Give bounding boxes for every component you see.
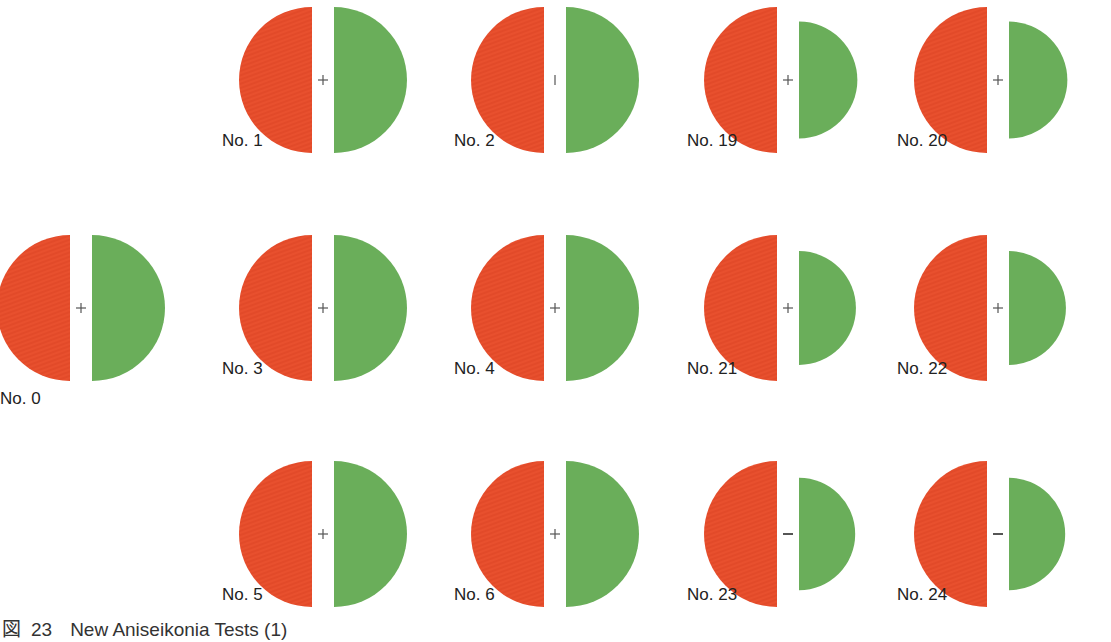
green-half-circle <box>799 478 855 590</box>
test-target <box>0 235 165 381</box>
test-label: No. 3 <box>222 359 263 379</box>
figure-caption-title: New Aniseikonia Tests (1) <box>70 619 287 640</box>
figure-caption: 図23New Aniseikonia Tests (1) <box>2 614 287 641</box>
test-target <box>471 235 639 381</box>
green-half-circle <box>566 7 639 153</box>
test-label: No. 1 <box>222 131 263 151</box>
green-half-circle <box>1009 251 1066 365</box>
green-half-circle <box>566 235 639 381</box>
fixation-mark-icon <box>318 303 328 313</box>
figure-caption-number: 23 <box>31 619 52 640</box>
fixation-mark-icon <box>993 303 1003 313</box>
green-half-circle <box>334 235 407 381</box>
green-half-circle <box>334 7 407 153</box>
test-label: No. 2 <box>454 131 495 151</box>
red-half-circle <box>0 235 70 381</box>
test-label: No. 20 <box>897 131 947 151</box>
fixation-mark-icon <box>550 303 560 313</box>
test-target <box>471 461 639 607</box>
green-half-circle <box>799 22 857 139</box>
test-label: No. 0 <box>0 389 41 409</box>
test-target <box>239 235 407 381</box>
test-label: No. 4 <box>454 359 495 379</box>
fixation-mark-icon <box>783 75 793 85</box>
test-label: No. 6 <box>454 585 495 605</box>
green-half-circle <box>799 251 856 365</box>
green-half-circle <box>92 235 165 381</box>
test-label: No. 19 <box>687 131 737 151</box>
test-label: No. 24 <box>897 585 947 605</box>
fixation-mark-icon <box>76 303 86 313</box>
green-half-circle <box>334 461 407 607</box>
test-label: No. 5 <box>222 585 263 605</box>
test-target <box>471 7 639 153</box>
green-half-circle <box>566 461 639 607</box>
fixation-mark-icon <box>783 303 793 313</box>
green-half-circle <box>1009 478 1065 590</box>
test-label: No. 23 <box>687 585 737 605</box>
test-target <box>239 7 407 153</box>
fixation-mark-icon <box>318 75 328 85</box>
fixation-mark-icon <box>318 529 328 539</box>
figure-caption-prefix: 図 <box>2 619 21 640</box>
test-label: No. 22 <box>897 359 947 379</box>
aniseikonia-test-figure <box>0 0 1111 642</box>
test-label: No. 21 <box>687 359 737 379</box>
fixation-mark-icon <box>550 529 560 539</box>
green-half-circle <box>1009 22 1067 139</box>
fixation-mark-icon <box>993 75 1003 85</box>
test-target <box>239 461 407 607</box>
